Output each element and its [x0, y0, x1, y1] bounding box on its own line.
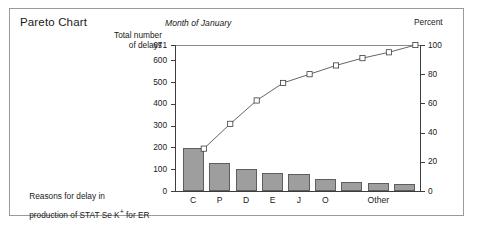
right-tick	[421, 45, 425, 46]
left-tick-label: 0	[133, 187, 167, 195]
cumulative-marker	[201, 146, 206, 151]
cumulative-marker	[281, 80, 286, 85]
right-tick	[421, 103, 425, 104]
left-tick-label: 600	[133, 56, 167, 64]
x-tick-label: O	[312, 195, 338, 205]
cumulative-marker	[333, 63, 338, 68]
right-tick-label: 60	[428, 99, 462, 107]
page-title: Pareto Chart	[20, 16, 87, 30]
cumulative-line-path	[204, 45, 416, 149]
cumulative-marker	[386, 50, 391, 55]
x-tick-label: J	[286, 195, 312, 205]
left-tick-label: 671	[133, 41, 167, 49]
caption-line-1: Reasons for delay in	[29, 191, 105, 201]
x-tick-label: D	[233, 195, 259, 205]
cumulative-marker	[228, 121, 233, 126]
right-tick-label: 40	[428, 128, 462, 136]
right-tick	[421, 191, 425, 192]
right-tick	[421, 74, 425, 75]
x-tick-label: P	[206, 195, 232, 205]
left-tick-label: 100	[133, 165, 167, 173]
left-tick-label: 300	[133, 121, 167, 129]
cumulative-marker	[254, 98, 259, 103]
x-tick-label: Other	[365, 195, 391, 205]
right-axis-title: Percent	[414, 18, 443, 28]
cumulative-percent-line	[175, 45, 421, 192]
plot-area: 0100200300400500600671 020406080100 CPDE…	[175, 45, 421, 191]
right-tick-label: 20	[428, 157, 462, 165]
chart-subtitle: Month of January	[165, 18, 231, 28]
right-tick	[421, 162, 425, 163]
caption-line-2-suffix: for ER	[124, 210, 150, 220]
cumulative-markers	[201, 42, 418, 151]
cumulative-marker	[360, 56, 365, 61]
left-tick-label: 200	[133, 143, 167, 151]
cumulative-marker	[413, 42, 418, 47]
caption-line-2-prefix: production of STAT Se K	[29, 210, 119, 220]
right-tick	[421, 133, 425, 134]
cumulative-marker	[307, 72, 312, 77]
x-tick-label: C	[180, 195, 206, 205]
left-tick-label: 500	[133, 78, 167, 86]
right-tick-label: 80	[428, 70, 462, 78]
left-tick-label: 400	[133, 99, 167, 107]
right-tick-label: 100	[428, 41, 462, 49]
x-tick-label: E	[259, 195, 285, 205]
right-tick-label: 0	[428, 187, 462, 195]
pareto-chart-figure: Pareto Chart Month of January Percent To…	[9, 8, 464, 216]
